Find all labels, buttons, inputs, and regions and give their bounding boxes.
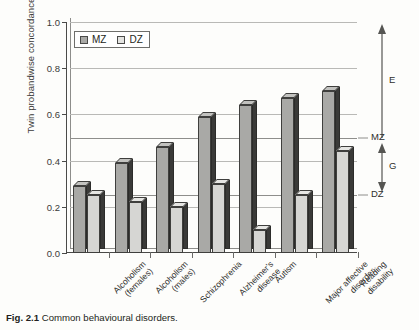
bar-mz [198, 117, 211, 253]
x-tick-mark [109, 252, 110, 258]
bar-front-face [73, 186, 86, 253]
bar-mz [281, 98, 294, 253]
bar-dz [253, 230, 266, 253]
y-axis-line-back [70, 18, 71, 249]
figure-caption: Fig. 2.1 Common behavioural disorders. [6, 312, 178, 323]
bar-group [156, 22, 198, 253]
y-tick-mark [62, 253, 67, 254]
bar-mz [156, 147, 169, 253]
bar-side-face [266, 226, 271, 249]
bar-front-face [170, 207, 183, 253]
y-axis-line [66, 22, 67, 253]
bar-side-face [225, 180, 230, 249]
legend-item-dz: DZ [117, 34, 142, 45]
x-tick-mark [192, 252, 193, 258]
bar-dz [87, 195, 100, 253]
legend-swatch-dz-icon [117, 36, 125, 44]
bar-front-face [239, 105, 252, 253]
bar-front-face [198, 117, 211, 253]
bar-front-face [87, 195, 100, 253]
x-axis-label: Autism [273, 259, 299, 285]
bar-group [198, 22, 240, 253]
caption-text: Common behavioural disorders. [42, 312, 178, 323]
bar-front-face [212, 184, 225, 253]
y-axis-title: Twin probandwise concordance [25, 0, 36, 166]
bar-side-face [142, 198, 147, 249]
x-axis-label: Alcoholism (males) [153, 259, 197, 303]
chart-legend: MZ DZ [74, 31, 150, 48]
bar-front-face [336, 151, 349, 253]
bar-dz [336, 151, 349, 253]
legend-swatch-mz-icon [80, 36, 88, 44]
legend-label-mz: MZ [92, 34, 106, 45]
x-axis-label: Schizophrenia [198, 259, 244, 305]
bar-front-face [253, 230, 266, 253]
bar-group [239, 22, 281, 253]
bar-side-face [349, 147, 354, 249]
bar-mz [115, 163, 128, 253]
annotation-label-e: E [389, 74, 395, 85]
x-axis-label: Alcoholism (females) [111, 259, 155, 303]
bar-dz [129, 202, 142, 253]
bar-mz [73, 186, 86, 253]
y-tick-mark [62, 207, 67, 208]
bar-front-face [129, 202, 142, 253]
bar-front-face [156, 147, 169, 253]
bar-dz [295, 195, 308, 253]
bar-side-face [183, 203, 188, 249]
y-tick-mark [62, 22, 67, 23]
annotation-arrows-icon [358, 22, 419, 253]
bar-group [115, 22, 157, 253]
bar-front-face [281, 98, 294, 253]
bar-front-face [115, 163, 128, 253]
caption-figure-number: Fig. 2.1 [6, 312, 39, 323]
bar-front-face [295, 195, 308, 253]
x-tick-mark [233, 252, 234, 258]
bar-front-face [322, 91, 335, 253]
x-tick-mark [316, 252, 317, 258]
y-tick-mark [62, 161, 67, 162]
figure-container: Twin probandwise concordance 0.00.20.40.… [0, 0, 419, 330]
annotation-label-mz: MZ [371, 131, 385, 142]
legend-label-dz: DZ [129, 34, 142, 45]
bar-dz [170, 207, 183, 253]
annotation-label-dz: DZ [371, 188, 384, 199]
x-tick-mark [275, 252, 276, 258]
bar-mz [322, 91, 335, 253]
bar-side-face [308, 191, 313, 249]
bar-side-face [100, 191, 105, 249]
bar-dz [212, 184, 225, 253]
bar-group [73, 22, 115, 253]
annotation-label-g: G [389, 160, 396, 171]
legend-item-mz: MZ [80, 34, 106, 45]
plot-area: 0.00.20.40.60.81.0 [66, 22, 357, 253]
y-tick-mark [62, 114, 67, 115]
bar-group [281, 22, 323, 253]
x-tick-mark [150, 252, 151, 258]
bar-mz [239, 105, 252, 253]
y-tick-mark [62, 68, 67, 69]
variance-annotations: E MZ G DZ [358, 22, 419, 253]
